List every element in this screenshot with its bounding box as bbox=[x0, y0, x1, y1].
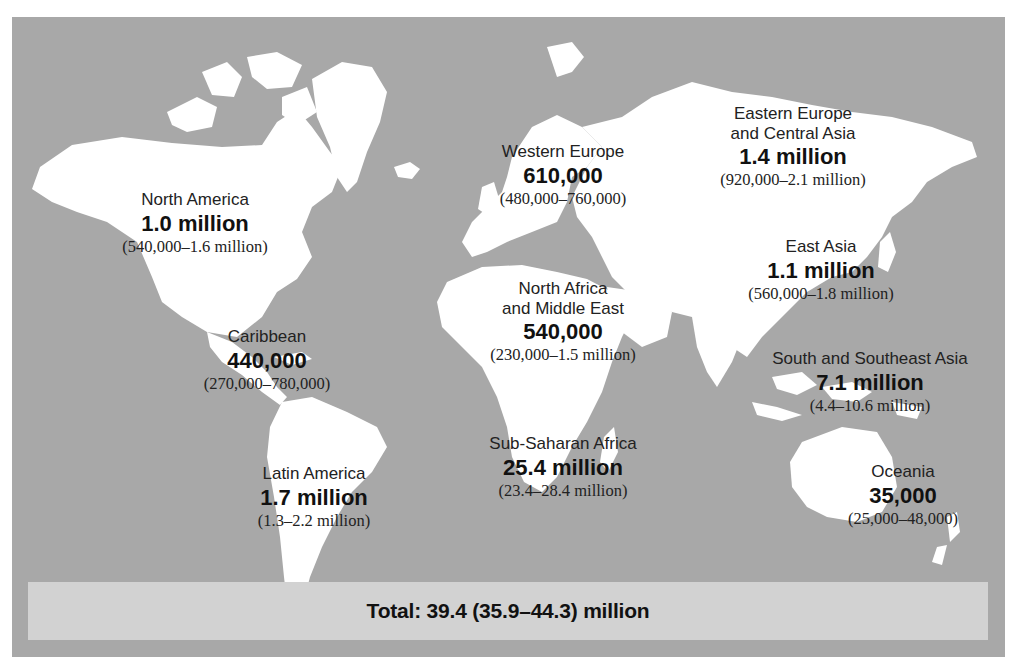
region-range: (270,000–780,000) bbox=[204, 375, 331, 394]
region-name: Western Europe bbox=[500, 142, 627, 162]
region-range: (480,000–760,000) bbox=[500, 190, 627, 209]
region-name-line2: and Central Asia bbox=[720, 124, 865, 144]
region-value: 540,000 bbox=[490, 319, 635, 344]
region-name-line1: Eastern Europe bbox=[720, 104, 865, 124]
region-value: 1.0 million bbox=[122, 211, 267, 236]
region-range: (230,000–1.5 million) bbox=[490, 346, 635, 365]
region-name: Latin America bbox=[258, 464, 370, 484]
region-label-latin-america: Latin America 1.7 million (1.3–2.2 milli… bbox=[258, 464, 370, 531]
region-name-line2: and Middle East bbox=[490, 299, 635, 319]
region-name: South and Southeast Asia bbox=[772, 349, 968, 369]
region-label-north-america: North America 1.0 million (540,000–1.6 m… bbox=[122, 190, 267, 257]
region-label-eastern-europe-central-asia: Eastern Europe and Central Asia 1.4 mill… bbox=[720, 104, 865, 190]
region-value: 1.1 million bbox=[748, 258, 893, 283]
total-box: Total: 39.4 (35.9–44.3) million bbox=[28, 582, 988, 640]
region-value: 610,000 bbox=[500, 163, 627, 188]
region-range: (920,000–2.1 million) bbox=[720, 171, 865, 190]
region-value: 7.1 million bbox=[772, 370, 968, 395]
region-name: Caribbean bbox=[204, 327, 331, 347]
region-label-east-asia: East Asia 1.1 million (560,000–1.8 milli… bbox=[748, 237, 893, 304]
region-range: (25,000–48,000) bbox=[848, 510, 958, 529]
region-label-western-europe: Western Europe 610,000 (480,000–760,000) bbox=[500, 142, 627, 209]
region-value: 1.4 million bbox=[720, 144, 865, 169]
region-value: 35,000 bbox=[848, 483, 958, 508]
region-name: Oceania bbox=[848, 462, 958, 482]
region-value: 25.4 million bbox=[489, 455, 636, 480]
region-name-line1: North Africa bbox=[490, 279, 635, 299]
region-range: (4.4–10.6 million) bbox=[772, 397, 968, 416]
region-value: 1.7 million bbox=[258, 485, 370, 510]
region-name: Sub-Saharan Africa bbox=[489, 434, 636, 454]
region-value: 440,000 bbox=[204, 348, 331, 373]
total-label: Total: 39.4 (35.9–44.3) million bbox=[367, 599, 650, 623]
region-range: (1.3–2.2 million) bbox=[258, 512, 370, 531]
region-name: East Asia bbox=[748, 237, 893, 257]
region-name: North America bbox=[122, 190, 267, 210]
region-range: (23.4–28.4 million) bbox=[489, 482, 636, 501]
world-map: North America 1.0 million (540,000–1.6 m… bbox=[12, 17, 1005, 657]
region-label-caribbean: Caribbean 440,000 (270,000–780,000) bbox=[204, 327, 331, 394]
region-label-sub-saharan-africa: Sub-Saharan Africa 25.4 million (23.4–28… bbox=[489, 434, 636, 501]
region-label-south-southeast-asia: South and Southeast Asia 7.1 million (4.… bbox=[772, 349, 968, 416]
region-range: (540,000–1.6 million) bbox=[122, 238, 267, 257]
region-label-north-africa-middle-east: North Africa and Middle East 540,000 (23… bbox=[490, 279, 635, 365]
region-label-oceania: Oceania 35,000 (25,000–48,000) bbox=[848, 462, 958, 529]
region-range: (560,000–1.8 million) bbox=[748, 285, 893, 304]
